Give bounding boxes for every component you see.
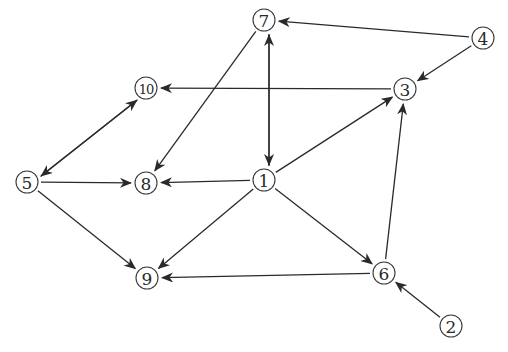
node-4: 4: [472, 27, 494, 49]
edges-layer: [38, 21, 471, 317]
node-label: 9: [142, 269, 153, 289]
edge-1-to-9: [159, 189, 254, 268]
edge-1-to-8: [161, 180, 250, 182]
nodes-layer: 12345678910: [16, 9, 494, 337]
edge-3-to-10: [161, 88, 391, 89]
edge-5-to-9: [38, 191, 135, 269]
node-label: 10: [139, 82, 154, 97]
edge-5-to-10: [41, 100, 137, 176]
node-label: 6: [379, 264, 390, 284]
node-2: 2: [440, 315, 462, 337]
node-5: 5: [16, 171, 38, 193]
node-1: 1: [253, 169, 275, 191]
node-10: 10: [135, 77, 157, 99]
node-label: 1: [259, 171, 270, 191]
edge-7-to-8: [155, 31, 256, 171]
node-3: 3: [394, 78, 416, 100]
edge-1-to-6: [275, 189, 372, 264]
node-label: 4: [478, 29, 489, 49]
edge-6-to-9: [162, 273, 370, 277]
node-label: 2: [446, 317, 457, 337]
node-label: 8: [141, 174, 152, 194]
node-label: 7: [259, 11, 270, 31]
node-7: 7: [253, 9, 275, 31]
node-8: 8: [135, 172, 157, 194]
edge-2-to-6: [396, 282, 440, 317]
node-6: 6: [373, 262, 395, 284]
edge-5-to-8: [41, 182, 131, 183]
node-label: 5: [22, 173, 33, 193]
edge-4-to-7: [279, 21, 469, 37]
edge-4-to-3: [418, 46, 472, 81]
edge-1-to-3: [276, 97, 393, 172]
edge-6-to-3: [386, 104, 404, 259]
directed-graph: 12345678910: [0, 0, 508, 352]
node-9: 9: [136, 267, 158, 289]
node-label: 3: [400, 80, 411, 100]
